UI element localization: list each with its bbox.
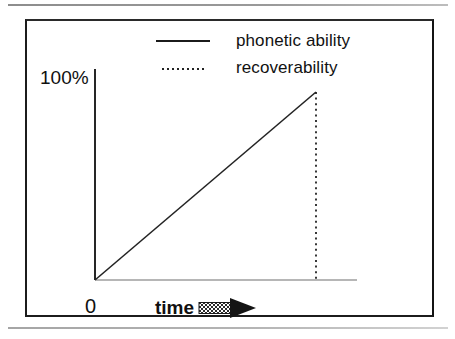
series-line-phonetic-ability: [95, 92, 316, 280]
page-rule-top: [8, 4, 448, 6]
x-axis-label: time: [155, 297, 194, 319]
y-axis-max-label: 100%: [40, 67, 89, 88]
right-arrow-icon: [199, 298, 257, 318]
chart-canvas: [27, 21, 436, 319]
plot-area: 100% 0 time: [27, 21, 436, 319]
page-rule-bottom: [8, 327, 448, 329]
origin-label: 0: [85, 295, 96, 317]
figure-box: phonetic ability recoverability 100% 0 t…: [25, 19, 434, 317]
